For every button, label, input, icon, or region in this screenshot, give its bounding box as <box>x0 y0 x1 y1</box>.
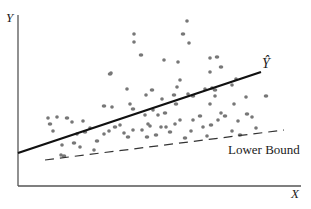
y-axis-label: Y <box>6 10 13 26</box>
data-point <box>132 40 136 44</box>
data-point <box>131 107 136 111</box>
data-point <box>208 102 212 106</box>
data-point <box>150 88 155 92</box>
data-point <box>78 145 82 149</box>
data-point <box>110 105 114 109</box>
data-point <box>51 129 55 133</box>
data-point <box>250 115 254 119</box>
data-point <box>59 153 63 157</box>
data-point <box>178 118 182 122</box>
data-point <box>168 130 173 134</box>
chart-canvas <box>0 0 311 209</box>
scatter-chart: Y X Ŷ Lower Bound <box>0 0 311 209</box>
data-point <box>128 102 132 106</box>
data-point <box>198 114 203 118</box>
data-point <box>113 125 118 129</box>
data-point <box>205 134 209 138</box>
data-point <box>125 87 129 91</box>
data-point <box>162 58 166 62</box>
data-point <box>215 55 220 59</box>
scatter-points <box>46 19 268 158</box>
data-point <box>55 115 59 119</box>
data-point <box>208 70 212 74</box>
data-point <box>209 123 214 127</box>
data-point <box>126 135 131 139</box>
data-point <box>232 102 236 106</box>
data-point <box>95 139 100 143</box>
data-point <box>92 148 96 152</box>
data-point <box>245 112 250 116</box>
data-point <box>216 118 220 122</box>
data-point <box>183 136 188 140</box>
data-point <box>163 111 168 115</box>
data-point <box>176 60 180 64</box>
data-point <box>191 118 195 122</box>
regression-line <box>18 72 261 153</box>
data-point <box>189 129 193 133</box>
data-point <box>244 95 248 99</box>
data-point <box>154 133 159 137</box>
data-point <box>230 83 234 87</box>
data-point <box>145 135 150 139</box>
data-point <box>131 128 135 132</box>
data-point <box>173 122 177 126</box>
data-point <box>102 104 107 108</box>
data-point <box>122 131 126 135</box>
data-point <box>70 120 74 124</box>
data-point <box>48 122 53 126</box>
lower-bound-label: Lower Bound <box>228 142 300 158</box>
data-point <box>208 56 212 60</box>
data-point <box>81 119 85 123</box>
data-point <box>175 85 179 89</box>
data-point <box>60 143 64 147</box>
x-axis-label: X <box>291 186 299 202</box>
data-point <box>140 128 144 132</box>
data-point <box>254 126 258 130</box>
data-point <box>46 116 50 120</box>
data-point <box>201 125 205 129</box>
data-point <box>164 125 168 129</box>
data-point <box>230 129 234 133</box>
data-point <box>160 97 164 101</box>
data-point <box>109 71 113 75</box>
data-point <box>132 32 136 36</box>
data-point <box>107 129 111 133</box>
data-point <box>187 41 191 45</box>
data-point <box>72 141 77 145</box>
data-point <box>219 65 224 69</box>
data-point <box>213 94 217 98</box>
data-point <box>178 78 182 82</box>
data-point <box>219 111 223 115</box>
data-point <box>181 32 186 36</box>
data-point <box>102 132 106 136</box>
data-point <box>159 125 163 129</box>
data-point <box>148 124 152 128</box>
data-point <box>118 123 122 127</box>
data-point <box>172 93 177 97</box>
data-point <box>236 119 240 123</box>
data-point <box>65 116 70 120</box>
data-point <box>174 102 179 106</box>
data-point <box>139 53 144 57</box>
data-point <box>264 94 269 98</box>
data-point <box>156 113 160 117</box>
data-point <box>144 93 148 97</box>
data-point <box>185 19 189 23</box>
yhat-label: Ŷ <box>262 56 270 72</box>
data-point <box>223 114 228 118</box>
data-point <box>143 113 147 117</box>
